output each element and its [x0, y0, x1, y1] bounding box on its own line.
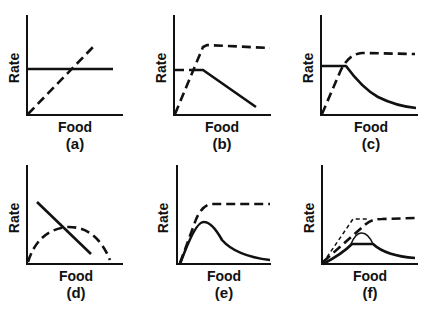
dashed-curve: [175, 45, 270, 114]
panel-label: (e): [215, 284, 233, 301]
panel-d: Rate Food (d): [6, 165, 123, 301]
panel-label: (d): [66, 284, 85, 301]
y-axis-label: Rate: [155, 203, 171, 234]
x-axis-label: Food: [59, 268, 93, 284]
panel-label: (c): [362, 135, 380, 152]
x-axis-label: Food: [353, 268, 387, 284]
y-axis-label: Rate: [300, 53, 316, 84]
x-axis-label: Food: [205, 119, 239, 135]
solid-curve: [180, 222, 270, 264]
y-axis-label: Rate: [153, 53, 169, 84]
axes: [177, 165, 271, 264]
panel-label: (b): [212, 135, 231, 152]
x-axis-label: Food: [58, 119, 92, 135]
axes: [174, 15, 271, 115]
solid-curve: [321, 66, 416, 108]
panel-f: Rate Food (f): [301, 165, 418, 301]
panel-c: Rate Food (c): [300, 15, 418, 152]
dashed-curve: [28, 45, 95, 114]
solid-curve: [190, 70, 256, 107]
axes: [27, 165, 123, 264]
solid-curve: [37, 202, 91, 254]
rate-vs-food-diagram: Rate Food (a) Rate Food (b) Rate Food (c…: [0, 0, 431, 311]
panel-e: Rate Food (e): [155, 165, 271, 301]
solid-curve: [323, 244, 415, 264]
y-axis-label: Rate: [6, 203, 22, 234]
x-axis-label: Food: [207, 268, 241, 284]
panel-a: Rate Food (a): [6, 15, 123, 152]
thin-solid-bell-curve: [351, 233, 373, 244]
x-axis-label: Food: [354, 119, 388, 135]
panel-label: (f): [363, 284, 378, 301]
panel-b: Rate Food (b): [153, 15, 271, 152]
y-axis-label: Rate: [301, 203, 317, 234]
panel-label: (a): [66, 135, 84, 152]
y-axis-label: Rate: [6, 53, 22, 84]
